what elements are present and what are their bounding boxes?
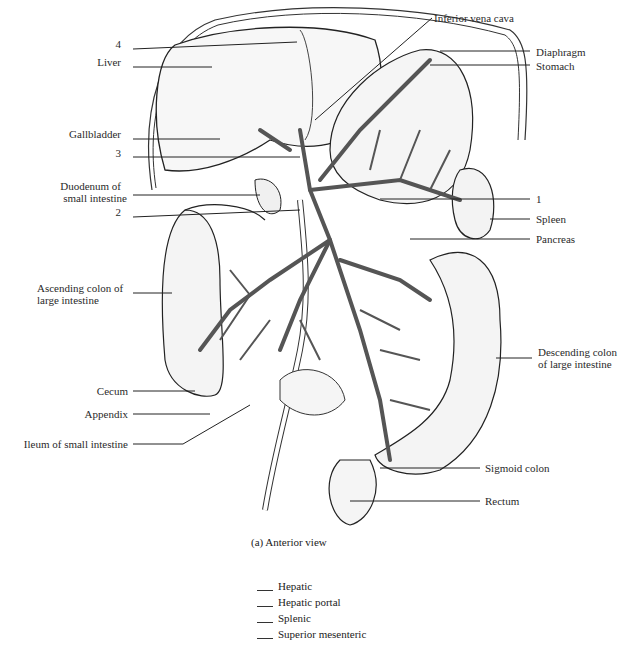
label-gallbladder: Gallbladder bbox=[69, 128, 121, 140]
label-rectum: Rectum bbox=[485, 495, 519, 507]
label-ascending-colon-line1: Ascending colon of bbox=[37, 282, 123, 294]
legend-item-hepatic-portal: Hepatic portal bbox=[257, 594, 366, 610]
answer-blank[interactable] bbox=[257, 597, 273, 607]
figure-caption: (a) Anterior view bbox=[251, 536, 327, 548]
label-ascending-colon-line2: large intestine bbox=[37, 294, 99, 306]
vessel-legend: Hepatic Hepatic portal Splenic Superior … bbox=[257, 578, 366, 642]
label-ileum: Ileum of small intestine bbox=[24, 438, 128, 450]
anatomy-illustration bbox=[0, 0, 634, 659]
label-3: 3 bbox=[116, 147, 122, 159]
label-4: 4 bbox=[116, 38, 122, 50]
answer-blank[interactable] bbox=[257, 581, 273, 591]
label-descending-colon-line1: Descending colon bbox=[538, 346, 617, 358]
answer-blank[interactable] bbox=[257, 613, 273, 623]
label-duodenum-line2: small intestine bbox=[63, 192, 127, 204]
label-sigmoid-colon: Sigmoid colon bbox=[485, 462, 549, 474]
legend-item-superior-mesenteric: Superior mesenteric bbox=[257, 626, 366, 642]
label-appendix: Appendix bbox=[85, 408, 128, 420]
label-stomach: Stomach bbox=[536, 60, 575, 72]
label-duodenum-line1: Duodenum of bbox=[60, 180, 121, 192]
label-inferior-vena-cava: Inferior vena cava bbox=[434, 12, 514, 24]
label-1: 1 bbox=[536, 193, 542, 205]
label-2: 2 bbox=[116, 206, 122, 218]
legend-item-hepatic: Hepatic bbox=[257, 578, 366, 594]
label-pancreas: Pancreas bbox=[536, 233, 575, 245]
label-spleen: Spleen bbox=[536, 213, 566, 225]
legend-item-splenic: Splenic bbox=[257, 610, 366, 626]
label-cecum: Cecum bbox=[97, 385, 128, 397]
label-descending-colon-line2: of large intestine bbox=[538, 358, 612, 370]
answer-blank[interactable] bbox=[257, 629, 273, 639]
label-diaphragm: Diaphragm bbox=[536, 46, 585, 58]
label-liver: Liver bbox=[97, 56, 121, 68]
